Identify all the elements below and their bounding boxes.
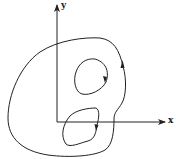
x-axis-label: x [168, 116, 173, 125]
y-axis-label: y [61, 1, 66, 10]
outer-boundary-curve [8, 38, 126, 157]
lower-inner-loop-curve [63, 108, 99, 146]
upper-inner-loop-curve [75, 59, 108, 95]
region-diagram [0, 0, 176, 159]
outer-orientation-arrow-icon [121, 60, 125, 68]
